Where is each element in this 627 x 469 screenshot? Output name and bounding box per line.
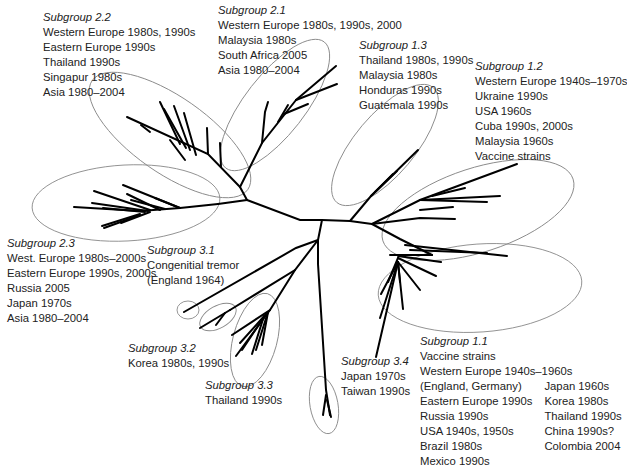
subgroup-line: Thailand 1990s: [544, 409, 621, 424]
subgroup-line: Brazil 1980s: [420, 439, 532, 454]
subgroup-line: Cuba 1990s, 2000s: [475, 119, 627, 134]
subgroup-line: Guatemala 1990s: [359, 98, 473, 113]
subgroup-3-2-label: Subgroup 3.2 Korea 1980s, 1990s: [128, 341, 229, 371]
subgroup-1-3-label: Subgroup 1.3 Thailand 1980s, 1990s Malay…: [359, 38, 473, 113]
subgroup-title: Subgroup 1.3: [359, 38, 473, 53]
subgroup-title: Subgroup 1.1: [420, 334, 622, 349]
subgroup-line: USA 1960s: [475, 104, 627, 119]
subgroup-line: Japan 1970s: [341, 369, 410, 384]
subgroup-line: Asia 1980–2004: [43, 85, 195, 100]
subgroup-line: Taiwan 1990s: [341, 384, 410, 399]
subgroup-3-3-label: Subgroup 3.3 Thailand 1990s: [205, 378, 282, 408]
subgroup-line: Asia 1980–2004: [7, 311, 156, 326]
subgroup-title: Subgroup 3.3: [205, 378, 282, 393]
subgroup-line: USA 1940s, 1950s: [420, 424, 532, 439]
subgroup-line: Korea 1980s: [544, 394, 621, 409]
subgroup-line: Mexico 1990s: [420, 454, 532, 469]
subgroup-line: Japan 1970s: [7, 296, 156, 311]
subgroup-line: Vaccine strains: [475, 149, 627, 164]
subgroup-line: Russia 2005: [7, 281, 156, 296]
subgroup-line: Russia 1990s: [420, 409, 532, 424]
subgroup-1-1-left-column: (England, Germany) Eastern Europe 1990s …: [420, 379, 532, 469]
subgroup-line: Thailand 1980s, 1990s: [359, 53, 473, 68]
subgroup-line: Ukraine 1990s: [475, 89, 627, 104]
subgroup-line: Singapur 1980s: [43, 70, 195, 85]
subgroup-line: Malaysia 1980s: [359, 68, 473, 83]
subgroup-line: China 1990s?: [544, 424, 621, 439]
subgroup-1-2-label: Subgroup 1.2 Western Europe 1940s–1970s …: [475, 59, 627, 164]
subgroup-line: Honduras 1990s: [359, 83, 473, 98]
subgroup-title: Subgroup 3.2: [128, 341, 229, 356]
subgroup-title: Subgroup 3.4: [341, 354, 410, 369]
subgroup-2-2-label: Subgroup 2.2 Western Europe 1980s, 1990s…: [43, 10, 195, 100]
subgroup-3-4-label: Subgroup 3.4 Japan 1970s Taiwan 1990s: [341, 354, 410, 399]
subgroup-line: Eastern Europe 1990s: [420, 394, 532, 409]
subgroup-line: Vaccine strains: [420, 349, 622, 364]
subgroup-line: Western Europe 1980s, 1990s, 2000: [218, 18, 402, 33]
subgroup-line: Colombia 2004: [544, 439, 621, 454]
subgroup-title: Subgroup 2.2: [43, 10, 195, 25]
subgroup-line: Western Europe 1940s–1960s: [420, 364, 622, 379]
subgroup-line: Western Europe 1980s, 1990s: [43, 25, 195, 40]
subgroup-1-1-label: Subgroup 1.1 Vaccine strains Western Eur…: [420, 334, 622, 469]
ellipse-2-3: [30, 160, 222, 246]
subgroup-line: Thailand 1990s: [43, 55, 195, 70]
subgroup-line: Eastern Europe 1990s: [43, 40, 195, 55]
subgroup-line: (England, Germany): [420, 379, 532, 394]
subgroup-line: Congenitial tremor: [147, 258, 239, 273]
subgroup-title: Subgroup 1.2: [475, 59, 627, 74]
subgroup-line: West. Europe 1980s–2000s: [7, 251, 156, 266]
subgroup-line: Malaysia 1960s: [475, 134, 627, 149]
subgroup-2-3-label: Subgroup 2.3 West. Europe 1980s–2000s Ea…: [7, 236, 156, 326]
subgroup-title: Subgroup 2.1: [218, 3, 402, 18]
subgroup-line: Western Europe 1940s–1970s: [475, 74, 627, 89]
subgroup-1-1-right-column: Japan 1960s Korea 1980s Thailand 1990s C…: [544, 379, 621, 469]
subgroup-3-1-label: Subgroup 3.1 Congenitial tremor (England…: [147, 243, 239, 288]
subgroup-line: Korea 1980s, 1990s: [128, 356, 229, 371]
subgroup-line: Eastern Europe 1990s, 2000s: [7, 266, 156, 281]
subgroup-line: Japan 1960s: [544, 379, 621, 394]
subgroup-1-1-columns: (England, Germany) Eastern Europe 1990s …: [420, 379, 622, 469]
subgroup-title: Subgroup 2.3: [7, 236, 156, 251]
subgroup-line: (England 1964): [147, 273, 239, 288]
subgroup-title: Subgroup 3.1: [147, 243, 239, 258]
subgroup-line: Thailand 1990s: [205, 393, 282, 408]
